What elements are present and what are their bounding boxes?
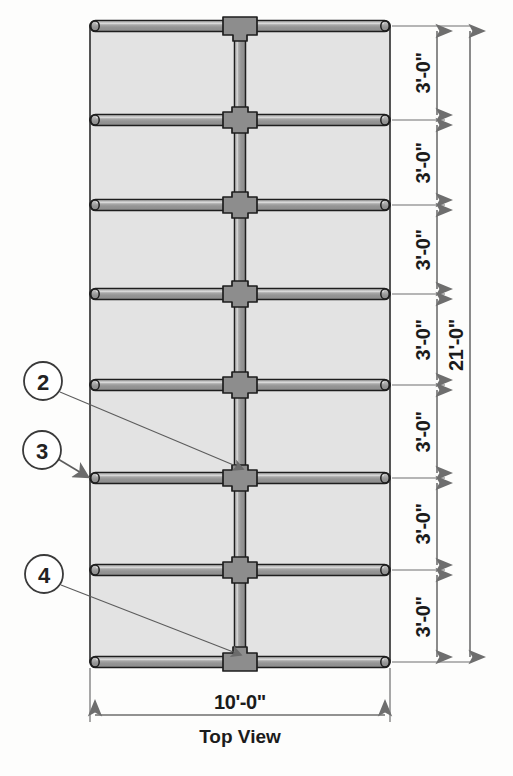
overall-vertical-dimension-label: 21'-0" [445,319,467,371]
vertical-dimension-chain: 3'-0" 3'-0" 3'-0" 3'-0" 3'-0" 3'-0" 3'-0… [392,26,470,662]
callout-bubble-2[interactable]: 2 [24,362,62,400]
overall-horizontal-dimension-label: 10'-0" [214,691,266,713]
callout-bubble-4-label: 4 [38,563,51,588]
bay-dimension-label-6: 3'-0" [412,503,434,544]
bay-dimension-label-4: 3'-0" [412,319,434,360]
callout-bubble-4[interactable]: 4 [25,555,63,593]
bay-dimension-label-7: 3'-0" [412,596,434,637]
technical-drawing-svg: 3'-0" 3'-0" 3'-0" 3'-0" 3'-0" 3'-0" 3'-0… [0,0,513,776]
drawing-canvas: 3'-0" 3'-0" 3'-0" 3'-0" 3'-0" 3'-0" 3'-0… [0,0,513,776]
callout-bubble-3[interactable]: 3 [23,431,61,469]
callout-bubble-2-label: 2 [37,370,49,395]
bay-dimension-label-3: 3'-0" [412,229,434,270]
horizontal-dimension: 10'-0" [90,668,390,722]
callout-bubble-3-label: 3 [36,439,48,464]
leader-line-3 [58,459,88,477]
bay-dimension-label-1: 3'-0" [412,52,434,93]
bay-dimension-label-5: 3'-0" [412,411,434,452]
view-title-label: Top View [199,726,281,747]
bay-dimension-label-2: 3'-0" [412,142,434,183]
